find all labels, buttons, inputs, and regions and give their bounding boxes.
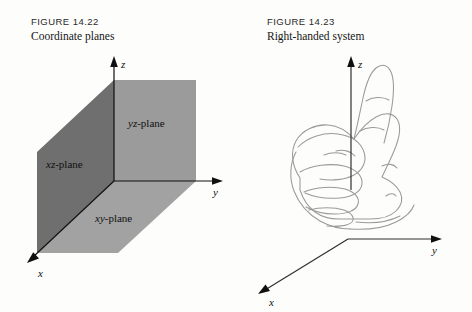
coordinate-planes-svg: z y x yz-plane xz-plane xy-plane	[0, 0, 236, 312]
hand-illustration	[291, 65, 414, 229]
knuckle-detail-1	[382, 164, 397, 168]
thumb-tip-crease	[366, 97, 389, 101]
knuckle-detail-2	[386, 194, 396, 196]
yz-plane-label: yz-plane	[127, 117, 165, 129]
wrist-outline	[350, 205, 414, 229]
middle-finger-outline	[300, 165, 362, 199]
y-axis-label: y	[431, 244, 437, 256]
xy-plane-label: xy-plane	[94, 212, 132, 224]
coordinate-planes-diagram: z y x yz-plane xz-plane xy-plane	[0, 0, 236, 312]
y-axis-label: y	[212, 186, 218, 198]
ring-finger-outline	[304, 187, 358, 214]
x-axis-line	[265, 239, 348, 290]
figure-page: FIGURE 14.22 Coordinate planes z y	[0, 0, 472, 312]
y-axis-arrowhead	[431, 235, 442, 242]
x-axis-label: x	[268, 296, 274, 308]
figure-14-23-panel: FIGURE 14.23 Right-handed system	[236, 0, 472, 312]
right-handed-system-svg: z y x	[236, 0, 472, 312]
y-axis-arrowhead	[212, 177, 223, 184]
index-finger-outline	[298, 134, 365, 180]
z-axis-label: z	[120, 58, 126, 70]
right-handed-system-diagram: z y x	[236, 0, 472, 312]
little-finger-outline	[309, 208, 353, 227]
xz-plane-label: xz-plane	[45, 158, 83, 170]
z-axis-arrowhead	[347, 56, 355, 67]
z-axis-label: z	[357, 58, 363, 70]
figure-14-22-panel: FIGURE 14.22 Coordinate planes z y	[0, 0, 236, 312]
x-axis-label: x	[37, 267, 43, 279]
thumb-knuckle-crease	[360, 127, 384, 131]
z-axis-arrowhead	[110, 56, 118, 67]
palm-detail	[324, 153, 346, 155]
x-axis-arrowhead	[258, 285, 270, 295]
yz-plane-shape	[114, 80, 196, 181]
